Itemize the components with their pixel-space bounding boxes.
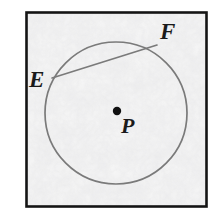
point-label-F: F xyxy=(160,20,175,43)
center-label-P: P xyxy=(121,115,134,137)
geometry-figure: E F P xyxy=(0,0,222,222)
point-label-E: E xyxy=(29,68,44,91)
center-point-dot xyxy=(113,107,121,115)
figure-canvas xyxy=(0,0,222,222)
